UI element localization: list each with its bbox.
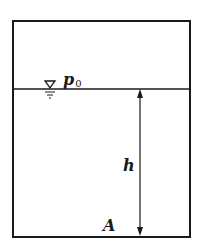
depth-label: h	[123, 156, 135, 175]
tank-container	[13, 21, 190, 237]
tank-diagram: p0 h A	[0, 0, 197, 244]
point-a-label: A	[101, 216, 115, 235]
surface-pressure-label: p0	[63, 70, 82, 89]
arrow-down-icon	[137, 227, 143, 236]
depth-dimension-arrow	[137, 89, 143, 236]
arrow-up-icon	[137, 89, 143, 98]
